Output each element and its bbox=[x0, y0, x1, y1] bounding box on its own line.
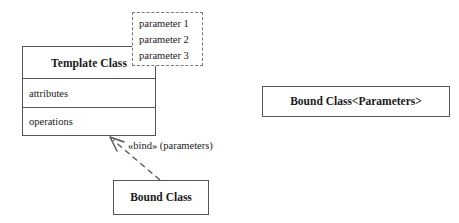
template-parameter-item: parameter 3 bbox=[139, 48, 202, 64]
template-class-attributes-compartment: attributes bbox=[23, 79, 155, 108]
template-parameter-item: parameter 1 bbox=[139, 16, 202, 32]
bound-class-parameters-box[interactable]: Bound Class<Parameters> bbox=[262, 86, 450, 117]
bind-arrowhead-icon bbox=[110, 137, 124, 151]
template-parameter-item: parameter 2 bbox=[139, 32, 202, 48]
diagram-canvas: Template Class attributes operations par… bbox=[0, 0, 459, 223]
template-class-operations-compartment: operations bbox=[23, 108, 155, 136]
bound-class-parameters-name: Bound Class<Parameters> bbox=[263, 87, 449, 116]
bound-class-name: Bound Class bbox=[114, 181, 208, 214]
bound-class-box[interactable]: Bound Class bbox=[113, 180, 209, 215]
bind-dependency-label: «bind» (parameters) bbox=[128, 140, 213, 151]
template-parameter-box[interactable]: parameter 1 parameter 2 parameter 3 bbox=[132, 12, 203, 66]
